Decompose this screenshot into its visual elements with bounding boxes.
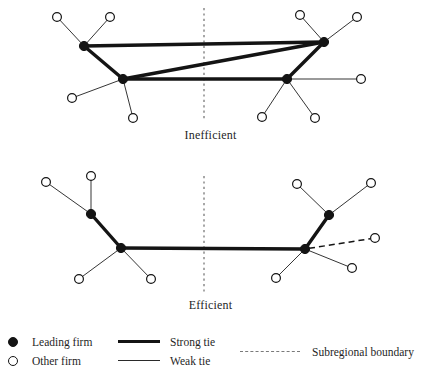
weak-tie-line — [83, 250, 118, 276]
other-firm-node — [311, 114, 320, 123]
legend-group-boundary: Subregional boundary — [240, 342, 414, 361]
leading-firm-node — [116, 243, 125, 252]
other-firm-node — [68, 94, 77, 103]
other-firm-node — [293, 180, 302, 189]
legend-label-other-firm: Other firm — [26, 355, 81, 367]
legend-group-firms: Leading firm Other firm — [8, 332, 92, 370]
strong-tie-line — [84, 42, 324, 46]
legend-item-strong-tie: Strong tie — [118, 332, 215, 351]
other-firm-node — [147, 275, 156, 284]
legend-group-ties: Strong tie Weak tie — [118, 332, 215, 370]
strong-tie-line — [305, 215, 329, 249]
weak-tie-line — [303, 18, 321, 39]
weak-tie-line — [124, 83, 132, 114]
leading-firm-node — [324, 210, 333, 219]
other-firm-node — [296, 11, 305, 20]
weak-tie-line — [76, 80, 119, 96]
weak-tie-line — [87, 20, 107, 43]
weak-tie-line — [289, 82, 312, 114]
other-firm-node — [53, 13, 62, 22]
other-firm-node — [348, 264, 357, 273]
weak-tie-line — [124, 251, 148, 276]
thin-line-icon — [118, 360, 164, 361]
other-firm-node — [106, 13, 115, 22]
leading-firm-node — [86, 209, 95, 218]
network-diagram-svg — [0, 0, 421, 378]
strong-tie-group — [84, 42, 329, 249]
other-firm-node — [258, 113, 267, 122]
weak-tie-line — [50, 185, 88, 212]
panel-label-efficient: Efficient — [0, 298, 421, 313]
figure-canvas: Inefficient Efficient Leading firm Other… — [0, 0, 421, 378]
strong-tie-line — [121, 248, 305, 249]
other-firm-node — [129, 114, 138, 123]
leading-firm-node — [300, 244, 309, 253]
legend-label-strong-tie: Strong tie — [164, 336, 215, 348]
other-firm-node — [353, 13, 362, 22]
leading-firm-node — [319, 37, 328, 46]
weak-tie-line — [327, 20, 353, 40]
other-firm-node — [367, 179, 376, 188]
leading-firm-node — [79, 41, 88, 50]
legend-item-subregional-boundary: Subregional boundary — [240, 342, 414, 361]
legend-item-other-firm: Other firm — [8, 351, 92, 370]
other-firm-node — [371, 234, 380, 243]
legend-item-weak-tie: Weak tie — [118, 351, 215, 370]
legend-label-leading-firm: Leading firm — [26, 336, 92, 348]
other-firm-node — [42, 178, 51, 187]
legend-label-subregional-boundary: Subregional boundary — [306, 346, 414, 358]
other-firm-node — [272, 274, 281, 283]
other-firm-node — [87, 172, 96, 181]
leading-firm-node — [282, 74, 291, 83]
legend-label-weak-tie: Weak tie — [164, 355, 210, 367]
weak-tie-line — [264, 82, 284, 113]
weak-tie-line — [60, 20, 81, 43]
leading-firm-node — [118, 74, 127, 83]
weak-tie-line — [309, 251, 348, 267]
open-circle-icon — [8, 356, 26, 366]
weak-tie-line — [279, 252, 302, 275]
other-firm-node — [75, 275, 84, 284]
strong-tie-line — [84, 46, 123, 79]
panel-label-inefficient: Inefficient — [0, 128, 421, 143]
legend: Leading firm Other firm Strong tie Weak … — [0, 332, 421, 378]
weak-tie-line — [300, 187, 326, 212]
dashed-tie-line — [309, 239, 371, 249]
strong-tie-line — [91, 214, 121, 248]
legend-item-leading-firm: Leading firm — [8, 332, 92, 351]
dashed-line-icon — [240, 351, 306, 352]
thick-line-icon — [118, 340, 164, 343]
filled-circle-icon — [8, 337, 26, 347]
other-firm-node — [357, 75, 366, 84]
dashed-tie-group — [309, 239, 371, 249]
weak-tie-line — [332, 186, 367, 213]
